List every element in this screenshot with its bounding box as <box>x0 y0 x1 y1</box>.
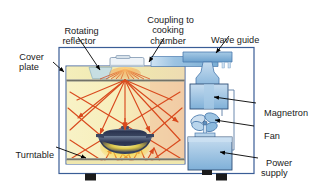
label-power-supply: Power supply <box>261 148 321 179</box>
label-coupling-to-cooking-chamber: Coupling to cooking chamber <box>137 5 199 46</box>
label-turntable: Turntable <box>0 140 54 160</box>
magnetron <box>190 84 228 109</box>
power-supply <box>188 137 232 175</box>
label-fan: Fan <box>259 121 299 141</box>
label-rotating-reflector: Rotating reflector <box>46 16 112 47</box>
label-cover-plate: Cover plate <box>6 42 52 73</box>
label-wave-guide: Wave guide <box>206 25 276 45</box>
label-magnetron: Magnetron <box>259 98 327 118</box>
diagram-canvas: Rotating reflector Coupling to cooking c… <box>0 0 329 193</box>
turntable <box>67 158 185 164</box>
coupling-hotspot <box>109 67 141 81</box>
